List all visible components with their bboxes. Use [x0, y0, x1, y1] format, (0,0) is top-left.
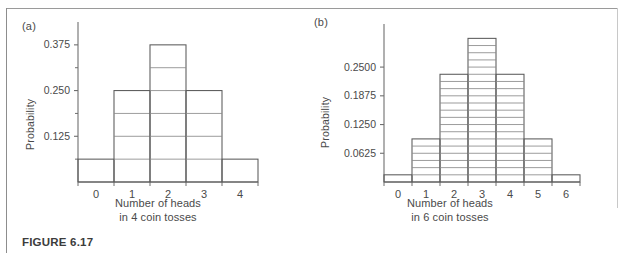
- page-frame-right-rule: [617, 8, 618, 208]
- panel-b-x-caption-line2: in 6 coin tosses: [370, 210, 530, 224]
- svg-text:0.1250: 0.1250: [344, 118, 376, 130]
- panel-b: (b) Probability 0.06250.12500.18750.2500…: [300, 0, 612, 235]
- panel-b-x-caption-line1: Number of heads: [370, 196, 530, 210]
- svg-text:0.0625: 0.0625: [344, 147, 376, 159]
- figure-container: (a) Probability 0.1250.2500.37501234 Num…: [0, 0, 624, 259]
- panel-b-x-axis-caption: Number of heads in 6 coin tosses: [370, 196, 530, 224]
- panel-a-x-caption-line2: in 4 coin tosses: [78, 210, 238, 224]
- figure-caption: FIGURE 6.17: [22, 236, 93, 248]
- svg-text:0.2500: 0.2500: [344, 61, 376, 73]
- svg-text:5: 5: [535, 188, 541, 200]
- panel-a-x-caption-line1: Number of heads: [78, 196, 238, 210]
- svg-text:0.125: 0.125: [44, 130, 70, 142]
- panel-b-plot: 0.06250.12500.18750.25000123456: [300, 0, 612, 200]
- svg-text:0.1875: 0.1875: [344, 89, 376, 101]
- panel-a-x-axis-caption: Number of heads in 4 coin tosses: [78, 196, 238, 224]
- svg-text:6: 6: [563, 188, 569, 200]
- svg-text:0.375: 0.375: [44, 38, 70, 50]
- panel-a: (a) Probability 0.1250.2500.37501234 Num…: [0, 0, 312, 235]
- panel-a-plot: 0.1250.2500.37501234: [0, 0, 312, 200]
- svg-text:0.250: 0.250: [44, 84, 70, 96]
